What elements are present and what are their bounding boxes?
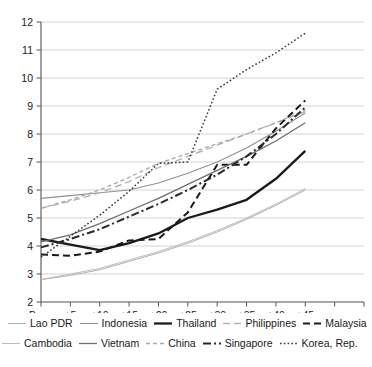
series-line-lao-pdr	[41, 190, 305, 280]
legend-swatch-solid-medium	[79, 339, 97, 348]
legend-item-label: Malaysia	[325, 317, 366, 329]
series-line-korea-rep	[41, 33, 305, 257]
legend-swatch-dashed-light	[223, 319, 241, 328]
y-axis	[37, 22, 42, 302]
series-line-china	[41, 110, 305, 208]
y-tick-label: 2	[27, 296, 33, 308]
y-tick-label: 8	[27, 128, 33, 140]
y-tick-label: 9	[27, 100, 33, 112]
legend-item-label: Philippines	[245, 317, 296, 329]
legend-item-vietnam[interactable]: Vietnam	[79, 337, 139, 349]
legend-swatch-dashed-dark	[303, 319, 321, 328]
legend-item-korea-rep[interactable]: Korea, Rep.	[280, 337, 358, 349]
y-tick-label: 7	[27, 156, 33, 168]
legend-item-malaysia[interactable]: Malaysia	[303, 317, 366, 329]
legend-item-lao-pdr[interactable]: Lao PDR	[8, 317, 73, 329]
legend-item-philippines[interactable]: Philippines	[223, 317, 296, 329]
legend-swatch-solid-thin-light	[8, 319, 26, 328]
y-tick-label: 12	[21, 16, 33, 28]
legend-item-label: Thailand	[176, 317, 216, 329]
legend-item-singapore[interactable]: Singapore	[203, 337, 273, 349]
series-line-cambodia	[41, 189, 305, 280]
legend-row-2: CambodiaVietnamChinaSingaporeKorea, Rep.	[0, 333, 372, 353]
chart-plot-area: 23456789101112 Base+5+10+15+20+25+30+35+…	[0, 0, 372, 313]
x-axis	[41, 302, 364, 307]
legend-item-label: Singapore	[225, 337, 273, 349]
legend-row-1: Lao PDRIndonesiaThailandPhilippinesMalay…	[0, 313, 372, 333]
legend-swatch-dash-dot	[203, 339, 221, 348]
y-tick-label: 4	[27, 240, 33, 252]
legend-swatch-solid-thick	[154, 319, 172, 328]
y-tick-label: 3	[27, 268, 33, 280]
legend-swatch-solid-thin	[80, 319, 98, 328]
line-chart: 23456789101112 Base+5+10+15+20+25+30+35+…	[0, 0, 372, 367]
legend-item-label: China	[168, 337, 195, 349]
legend-item-label: Cambodia	[24, 337, 72, 349]
series-line-thailand	[41, 151, 305, 250]
legend-item-label: Vietnam	[101, 337, 139, 349]
legend-swatch-dashed-fine-light	[146, 339, 164, 348]
legend-item-china[interactable]: China	[146, 337, 195, 349]
series-lines	[41, 33, 305, 279]
chart-legend: Lao PDRIndonesiaThailandPhilippinesMalay…	[0, 313, 372, 367]
y-tick-label: 5	[27, 212, 33, 224]
legend-item-indonesia[interactable]: Indonesia	[80, 317, 148, 329]
legend-item-label: Lao PDR	[30, 317, 73, 329]
legend-swatch-solid-thin-light2	[2, 339, 20, 348]
y-tick-label: 11	[22, 44, 33, 56]
legend-item-thailand[interactable]: Thailand	[154, 317, 216, 329]
legend-item-label: Indonesia	[102, 317, 148, 329]
legend-item-label: Korea, Rep.	[302, 337, 358, 349]
legend-swatch-dotted	[280, 339, 298, 348]
y-tick-label: 6	[27, 184, 33, 196]
y-tick-label: 10	[21, 72, 33, 84]
legend-item-cambodia[interactable]: Cambodia	[2, 337, 72, 349]
y-tick-labels: 23456789101112	[21, 16, 33, 308]
